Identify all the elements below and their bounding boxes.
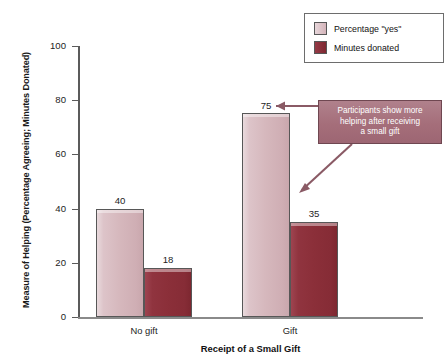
legend-swatch-icon-percentage-yes	[314, 22, 327, 35]
legend-entry-percentage-yes: Percentage "yes"	[314, 19, 443, 38]
y-tick-label-80: 80	[26, 94, 66, 105]
bar-gift-minutes-donated	[290, 222, 338, 317]
x-category-gift: Gift	[235, 325, 345, 336]
bar-highlight	[291, 223, 337, 226]
callout-arrow-head-diagonal	[299, 183, 310, 193]
callout-line-1: Participants show more	[337, 106, 422, 115]
callout-box: Participants show more helping after rec…	[318, 100, 442, 144]
legend-entry-minutes-donated: Minutes donated	[314, 38, 443, 57]
y-tick-100	[72, 46, 78, 47]
bar-value-gift-percentage-yes: 75	[243, 100, 289, 111]
legend: Percentage "yes" Minutes donated	[304, 13, 444, 63]
y-tick-label-40: 40	[26, 203, 66, 214]
callout-text: Participants show more helping after rec…	[337, 106, 422, 138]
bar-gift-percentage-yes	[242, 113, 290, 317]
bar-value-no-gift-minutes-donated: 18	[145, 254, 191, 265]
bar-value-gift-minutes-donated: 35	[291, 208, 337, 219]
y-tick-label-0: 0	[26, 311, 66, 322]
x-category-no-gift: No gift	[89, 325, 199, 336]
callout-line-2: helping after receiving	[340, 117, 420, 126]
bar-highlight	[243, 114, 289, 117]
bar-no-gift-minutes-donated	[144, 268, 192, 317]
bar-chart: Measure of Helping (Percentage Agreeing;…	[0, 0, 447, 360]
y-axis-title: Measure of Helping (Percentage Agreeing;…	[21, 50, 31, 310]
callout-line-3: a small gift	[360, 127, 399, 136]
y-tick-label-20: 20	[26, 257, 66, 268]
legend-swatch-icon-minutes-donated	[314, 41, 327, 54]
x-axis-line	[78, 317, 423, 319]
legend-label-percentage-yes: Percentage "yes"	[334, 24, 401, 34]
callout-arrow-line-diagonal	[302, 144, 352, 190]
y-tick-0	[72, 317, 78, 318]
y-tick-80	[72, 100, 78, 101]
y-tick-40	[72, 209, 78, 210]
x-axis-title: Receipt of a Small Gift	[78, 343, 423, 354]
y-tick-60	[72, 154, 78, 155]
y-tick-20	[72, 263, 78, 264]
bar-value-no-gift-percentage-yes: 40	[97, 195, 143, 206]
bar-highlight	[145, 269, 191, 272]
bar-highlight	[97, 210, 143, 213]
bar-no-gift-percentage-yes	[96, 209, 144, 317]
y-axis-line	[78, 46, 80, 318]
legend-label-minutes-donated: Minutes donated	[334, 43, 399, 53]
y-tick-label-60: 60	[26, 148, 66, 159]
y-tick-label-100: 100	[26, 40, 66, 51]
